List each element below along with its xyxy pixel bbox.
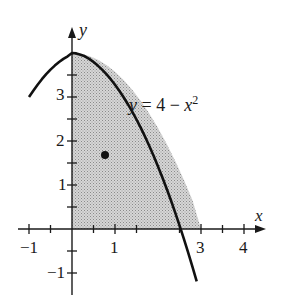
y-tick-label: 2 bbox=[56, 131, 65, 150]
x-tick-label: 1 bbox=[110, 238, 119, 257]
y-tick-label: −1 bbox=[47, 263, 65, 282]
x-tick-label: −1 bbox=[20, 238, 38, 257]
parabola-diagram: −1 1 3 4 3 2 1 −1 x y y = 4 − x2 bbox=[0, 0, 282, 303]
x-axis-label: x bbox=[254, 206, 263, 225]
y-tick-label: 1 bbox=[58, 175, 67, 194]
x-tick-label: 3 bbox=[196, 238, 205, 257]
point-marker bbox=[101, 151, 109, 159]
curve-equation-label: y = 4 − x2 bbox=[127, 93, 198, 115]
y-axis-arrow-icon bbox=[68, 27, 76, 38]
x-axis-arrow-icon bbox=[255, 225, 266, 233]
shaded-region bbox=[72, 53, 201, 229]
y-axis-label: y bbox=[77, 20, 87, 40]
y-tick-label: 3 bbox=[56, 85, 65, 104]
x-tick-label: 4 bbox=[239, 238, 248, 257]
